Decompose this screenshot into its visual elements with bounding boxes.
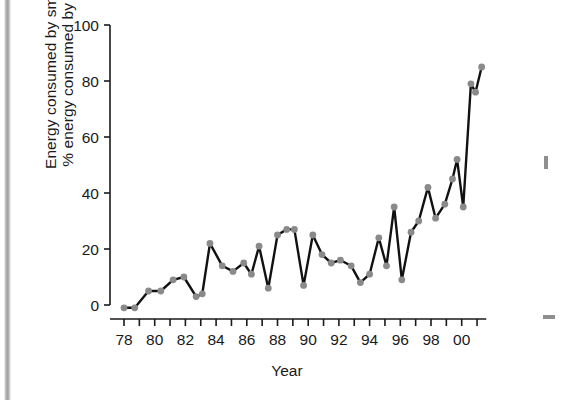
svg-text:94: 94 [361,331,379,348]
y-axis-label-line2-text: % energy consumed by D. merriami [59,0,77,167]
x-axis-label: Year [0,362,574,380]
svg-text:82: 82 [177,331,194,348]
svg-text:98: 98 [422,331,439,348]
svg-text:92: 92 [330,331,347,348]
svg-text:20: 20 [82,241,100,258]
y-axis-label-line2: % energy consumed by D. merriami [46,0,90,192]
figure-container: 020406080100 788082848688909294969800 En… [0,0,574,400]
data-series [121,64,485,312]
svg-text:84: 84 [207,331,225,348]
svg-text:96: 96 [392,331,409,348]
svg-text:78: 78 [115,331,132,348]
y-axis-label-line2-prefix: % energy consumed by [59,0,76,167]
svg-text:86: 86 [238,331,255,348]
x-axis: 788082848688909294969800 [110,319,486,348]
svg-text:00: 00 [453,331,471,348]
svg-text:80: 80 [146,331,164,348]
svg-text:0: 0 [90,297,99,314]
svg-text:88: 88 [269,331,286,348]
svg-text:90: 90 [300,331,318,348]
